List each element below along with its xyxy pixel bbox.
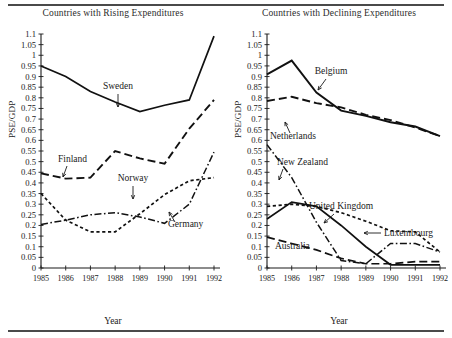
y-tick-label: 1.1 <box>251 29 262 39</box>
chart-title-rising: Countries with Rising Expenditures <box>0 8 226 18</box>
y-tick-label: 1.05 <box>21 40 36 50</box>
y-tick-label: 0.7 <box>251 114 262 124</box>
y-tick-label: 1.05 <box>247 40 262 50</box>
series-annotation-luxembourg: Luxembourg <box>384 228 433 238</box>
y-tick-label: 0.1 <box>25 242 36 252</box>
x-tick-label: 1987 <box>82 274 98 283</box>
y-tick-label: 0.8 <box>251 93 262 103</box>
y-tick-label: 0 <box>32 263 36 273</box>
y-tick-label: 0.4 <box>251 178 262 188</box>
y-tick-label: 1 <box>32 50 36 60</box>
y-tick-label: 0.85 <box>21 82 36 92</box>
chart-panel-declining: Countries with Declining Expenditures PS… <box>226 8 452 326</box>
y-tick-label: 0 <box>258 263 262 273</box>
y-tick-label: 0.85 <box>247 82 262 92</box>
chart-svg-declining: 00.050.10.150.20.250.30.350.40.450.50.55… <box>226 24 452 304</box>
annotation-arrow <box>318 79 326 90</box>
y-tick-label: 0.6 <box>25 135 36 145</box>
series-annotation-germany: Germany <box>168 219 204 229</box>
x-tick-label: 1986 <box>284 274 300 283</box>
series-annotation-sweden: Sweden <box>103 81 133 91</box>
series-line-belgium <box>267 61 440 137</box>
figure-page: Countries with Rising Expenditures PSE/G… <box>0 0 452 338</box>
x-tick-label: 1991 <box>407 274 423 283</box>
y-tick-label: 0.55 <box>21 146 36 156</box>
plot-area-declining: 00.050.10.150.20.250.30.350.40.450.50.55… <box>226 24 452 304</box>
series-annotation-australia: Australia <box>275 241 311 251</box>
chart-title-declining: Countries with Declining Expenditures <box>226 8 452 18</box>
x-axis-label-left: Year <box>0 316 226 326</box>
y-tick-label: 0.15 <box>247 231 262 241</box>
x-tick-label: 1988 <box>107 274 123 283</box>
y-tick-label: 0.3 <box>251 199 262 209</box>
y-tick-label: 0.2 <box>25 220 36 230</box>
y-tick-label: 0.55 <box>247 146 262 156</box>
x-tick-label: 1988 <box>333 274 349 283</box>
y-tick-label: 0.35 <box>247 189 262 199</box>
y-tick-label: 0.7 <box>25 114 36 124</box>
y-tick-label: 0.5 <box>251 157 262 167</box>
y-tick-label: 0.4 <box>25 178 36 188</box>
series-annotation-belgium: Belgium <box>315 66 348 76</box>
y-tick-label: 0.45 <box>247 167 262 177</box>
y-tick-label: 0.9 <box>251 72 262 82</box>
y-tick-label: 0.05 <box>21 252 36 262</box>
top-rule <box>8 4 444 6</box>
y-tick-label: 0.5 <box>25 157 36 167</box>
x-tick-label: 1990 <box>156 274 172 283</box>
y-tick-label: 0.65 <box>21 125 36 135</box>
x-tick-label: 1990 <box>382 274 398 283</box>
x-tick-label: 1985 <box>259 274 275 283</box>
bottom-rule <box>8 330 444 332</box>
y-tick-label: 0.75 <box>21 103 36 113</box>
x-tick-label: 1992 <box>206 274 222 283</box>
y-tick-label: 0.75 <box>247 103 262 113</box>
x-tick-label: 1985 <box>33 274 49 283</box>
y-tick-label: 0.8 <box>25 93 36 103</box>
y-tick-label: 1 <box>258 50 262 60</box>
x-tick-label: 1992 <box>432 274 448 283</box>
y-tick-label: 0.95 <box>21 61 36 71</box>
chart-svg-rising: 00.050.10.150.20.250.30.350.40.450.50.55… <box>0 24 226 304</box>
y-tick-label: 0.6 <box>251 135 262 145</box>
x-tick-label: 1987 <box>308 274 324 283</box>
x-tick-label: 1986 <box>58 274 74 283</box>
series-annotation-united-kingdom: United Kingdom <box>309 201 374 211</box>
plot-area-rising: 00.050.10.150.20.250.30.350.40.450.50.55… <box>0 24 226 304</box>
y-tick-label: 0.9 <box>25 72 36 82</box>
y-tick-label: 0.25 <box>21 210 36 220</box>
series-line-sweden <box>41 36 214 112</box>
x-tick-label: 1991 <box>181 274 197 283</box>
chart-panel-rising: Countries with Rising Expenditures PSE/G… <box>0 8 226 326</box>
y-tick-label: 0.15 <box>21 231 36 241</box>
series-annotation-finland: Finland <box>58 154 87 164</box>
y-tick-label: 0.05 <box>247 252 262 262</box>
y-tick-label: 0.35 <box>21 189 36 199</box>
y-tick-label: 0.65 <box>247 125 262 135</box>
x-axis-label-right: Year <box>226 316 452 326</box>
x-tick-label: 1989 <box>132 274 148 283</box>
y-tick-label: 0.95 <box>247 61 262 71</box>
y-tick-label: 0.1 <box>251 242 262 252</box>
series-annotation-norway: Norway <box>118 173 149 183</box>
x-tick-label: 1989 <box>358 274 374 283</box>
y-tick-label: 0.3 <box>25 199 36 209</box>
series-annotation-netherlands: Netherlands <box>270 131 316 141</box>
y-tick-label: 0.45 <box>21 167 36 177</box>
y-tick-label: 0.25 <box>247 210 262 220</box>
series-annotation-new-zealand: New Zealand <box>277 157 328 167</box>
y-tick-label: 1.1 <box>25 29 36 39</box>
y-tick-label: 0.2 <box>251 220 262 230</box>
